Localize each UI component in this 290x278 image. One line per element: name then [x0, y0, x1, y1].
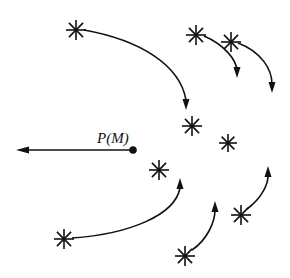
point-label: P(M) — [97, 130, 129, 147]
arrowhead-icon — [269, 82, 276, 93]
star-icon — [186, 25, 206, 45]
arrowhead-icon — [212, 201, 219, 212]
trajectory-curve — [84, 30, 186, 100]
arrowhead-icon — [177, 178, 184, 189]
arrowhead-icon — [234, 67, 241, 78]
star-icon — [182, 116, 202, 136]
trajectory-arrow — [84, 30, 190, 110]
point-dot — [129, 146, 137, 154]
trajectory-arrow — [247, 166, 272, 209]
trajectory-curve — [247, 176, 268, 209]
arrowhead-icon — [265, 166, 272, 177]
star-icon — [66, 20, 86, 40]
trajectory-arrow — [238, 43, 276, 93]
star-icon — [175, 246, 195, 266]
star-icon — [54, 229, 74, 249]
diagram-canvas: P(M) — [0, 0, 290, 278]
diagram-svg — [0, 0, 290, 278]
trajectory-curve — [238, 43, 272, 84]
star-icon — [149, 160, 169, 180]
trajectory-arrow — [192, 201, 219, 250]
trajectory-curve — [72, 188, 180, 238]
trajectory-arrow — [72, 178, 184, 238]
trajectory-curve — [192, 210, 215, 250]
arrowhead-left-icon — [16, 147, 29, 154]
arrowhead-icon — [183, 99, 190, 110]
star-icon — [219, 134, 237, 152]
